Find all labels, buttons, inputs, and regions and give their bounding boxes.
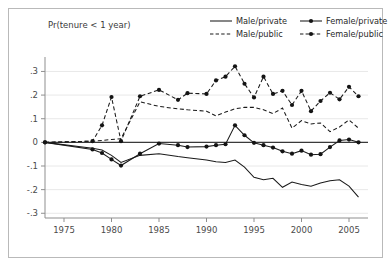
data-point-marker — [252, 141, 256, 145]
data-point-marker — [252, 95, 256, 99]
data-point-marker — [176, 98, 180, 102]
data-point-marker — [271, 92, 275, 96]
y-tick-label: .3 — [30, 66, 38, 76]
y-tick-label: -.1 — [27, 161, 38, 171]
y-axis-title: Pr(tenure < 1 year) — [48, 20, 131, 30]
data-point-marker — [214, 143, 218, 147]
x-tick-label: 1990 — [196, 225, 218, 235]
x-tick-label: 2005 — [338, 225, 360, 235]
legend-entry: Male/public — [210, 29, 283, 39]
data-point-marker — [233, 64, 237, 68]
data-point-marker — [337, 97, 341, 101]
y-tick-label: -.2 — [27, 185, 38, 195]
data-point-marker — [119, 139, 123, 143]
x-tick-label: 1995 — [243, 225, 265, 235]
data-point-marker — [280, 149, 284, 153]
y-tick-labels: .3.2.10-.1-.2-.3 — [27, 66, 38, 218]
data-point-marker — [309, 153, 313, 157]
series-male-public — [45, 102, 359, 143]
data-point-marker — [290, 103, 294, 107]
data-point-marker — [185, 145, 189, 149]
data-point-marker — [109, 157, 113, 161]
series-line — [45, 66, 359, 142]
data-point-marker — [356, 94, 360, 98]
legend-entry: Female/private — [300, 16, 387, 26]
data-point-marker — [299, 89, 303, 93]
data-point-marker — [100, 151, 104, 155]
data-point-marker — [100, 123, 104, 127]
data-point-marker — [119, 163, 123, 167]
data-point-marker — [138, 152, 142, 156]
data-point-marker — [290, 152, 294, 156]
data-point-marker — [347, 85, 351, 89]
data-point-marker — [261, 75, 265, 79]
legend-label: Female/private — [326, 16, 387, 26]
x-tick-label: 1975 — [53, 225, 75, 235]
data-point-marker — [328, 91, 332, 95]
legend-label: Female/public — [326, 29, 383, 39]
data-series — [43, 64, 361, 197]
data-point-marker — [356, 140, 360, 144]
data-point-marker — [157, 141, 161, 145]
data-point-marker — [109, 95, 113, 99]
data-point-marker — [233, 123, 237, 127]
data-point-marker — [138, 94, 142, 98]
series-line — [45, 102, 359, 143]
data-point-marker — [318, 99, 322, 103]
data-point-marker — [328, 145, 332, 149]
data-point-marker — [271, 145, 275, 149]
data-point-marker — [176, 143, 180, 147]
data-point-marker — [204, 145, 208, 149]
series-female-private — [43, 123, 361, 167]
data-point-marker — [299, 149, 303, 153]
x-tick-label: 2000 — [291, 225, 313, 235]
y-tick-label: .2 — [30, 90, 38, 100]
data-point-marker — [318, 152, 322, 156]
x-tick-labels: 1975198019851990199520002005 — [53, 225, 360, 235]
data-point-marker — [242, 133, 246, 137]
data-point-marker — [309, 109, 313, 113]
data-point-marker — [261, 143, 265, 147]
data-point-marker — [242, 82, 246, 86]
axis-lines — [45, 57, 368, 218]
series-female-public — [43, 64, 361, 144]
data-point-marker — [214, 78, 218, 82]
data-point-marker — [204, 92, 208, 96]
data-point-marker — [347, 137, 351, 141]
y-tick-label: .1 — [30, 114, 38, 124]
data-point-marker — [280, 89, 284, 93]
data-point-marker — [90, 147, 94, 151]
y-tick-label: 0 — [33, 137, 38, 147]
legend-marker-swatch — [309, 19, 313, 23]
x-tick-label: 1985 — [148, 225, 170, 235]
legend-marker-swatch — [309, 32, 313, 36]
data-point-marker — [157, 88, 161, 92]
x-tick-label: 1980 — [101, 225, 123, 235]
legend-entry: Male/private — [210, 16, 287, 26]
data-point-marker — [223, 75, 227, 79]
legend-label: Male/private — [236, 16, 287, 26]
data-point-marker — [223, 142, 227, 146]
data-point-marker — [337, 138, 341, 142]
x-tick-marks — [64, 218, 349, 222]
y-tick-label: -.3 — [27, 208, 38, 218]
line-chart: .3.2.10-.1-.2-.3 19751980198519901995200… — [0, 0, 391, 266]
chart-figure: .3.2.10-.1-.2-.3 19751980198519901995200… — [0, 0, 391, 266]
legend-entry: Female/public — [300, 29, 383, 39]
data-point-marker — [90, 139, 94, 143]
data-point-marker — [185, 91, 189, 95]
chart-legend: Male/privateFemale/privateMale/publicFem… — [210, 16, 387, 39]
data-point-marker — [43, 140, 47, 144]
legend-label: Male/public — [236, 29, 283, 39]
